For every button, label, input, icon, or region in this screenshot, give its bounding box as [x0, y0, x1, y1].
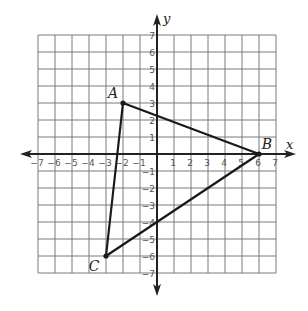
y-tick-label: −3	[142, 201, 155, 211]
plane-svg: −7−6−5−4−3−2−112345677654321−1−2−3−4−5−6…	[0, 0, 308, 311]
axes	[20, 14, 296, 296]
y-tick-label: −6	[142, 252, 156, 262]
x-tick-label: −3	[98, 158, 111, 168]
x-tick-label: 4	[221, 158, 227, 168]
x-axis-label: x	[286, 137, 294, 152]
x-tick-label: 2	[187, 158, 193, 168]
point-label-a: A	[106, 85, 118, 101]
x-tick-label: −5	[64, 158, 77, 168]
y-tick-label: 5	[149, 65, 155, 75]
triangle-abc	[106, 103, 259, 256]
point-a	[120, 100, 125, 105]
y-tick-label: −2	[142, 184, 155, 194]
point-label-b: B	[261, 136, 272, 152]
y-tick-label: 3	[149, 99, 155, 109]
vertices: ABC	[89, 85, 273, 274]
y-tick-label: 6	[149, 48, 155, 58]
y-tick-label: 2	[149, 116, 155, 126]
y-tick-label: −5	[142, 235, 155, 245]
y-tick-label: 1	[149, 133, 155, 143]
y-tick-label: 7	[149, 31, 155, 41]
x-tick-label: 1	[170, 158, 176, 168]
x-tick-label: −6	[47, 158, 61, 168]
y-tick-label: 4	[149, 82, 155, 92]
x-tick-label: 6	[255, 158, 261, 168]
point-b	[256, 151, 261, 156]
y-tick-label: −1	[142, 167, 155, 177]
y-axis-label: y	[162, 11, 171, 26]
point-label-c: C	[89, 258, 100, 274]
x-tick-label: −7	[30, 158, 43, 168]
point-c	[103, 253, 108, 258]
x-tick-label: 3	[204, 158, 210, 168]
y-tick-label: −4	[142, 218, 156, 228]
x-tick-label: 7	[272, 158, 278, 168]
y-tick-label: −7	[142, 269, 155, 279]
x-tick-label: −4	[81, 158, 95, 168]
segment-ca	[106, 103, 123, 256]
coordinate-plane: −7−6−5−4−3−2−112345677654321−1−2−3−4−5−6…	[0, 0, 308, 311]
